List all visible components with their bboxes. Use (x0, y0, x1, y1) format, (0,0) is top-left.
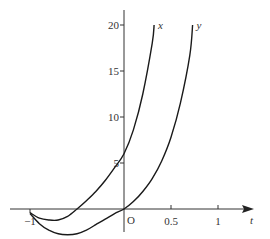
curve-x (30, 25, 154, 220)
x-axis-label: t (250, 214, 254, 226)
chart: −10.51 5101520 xy O t (0, 0, 270, 239)
x-ticks: −10.51 (24, 205, 221, 227)
y-tick-label: 20 (108, 19, 120, 31)
curve-y (30, 25, 193, 235)
y-tick-label: 15 (108, 65, 120, 77)
origin-label: O (127, 214, 135, 226)
axes (10, 10, 254, 232)
y-ticks: 5101520 (108, 19, 124, 169)
curves: xy (30, 19, 202, 235)
x-tick-label: 0.5 (164, 215, 178, 227)
curve-label-y: y (196, 19, 202, 31)
curve-label-x: x (157, 19, 163, 31)
x-tick-label: 1 (215, 215, 221, 227)
x-tick-label: −1 (24, 215, 36, 227)
y-tick-label: 10 (108, 111, 120, 123)
